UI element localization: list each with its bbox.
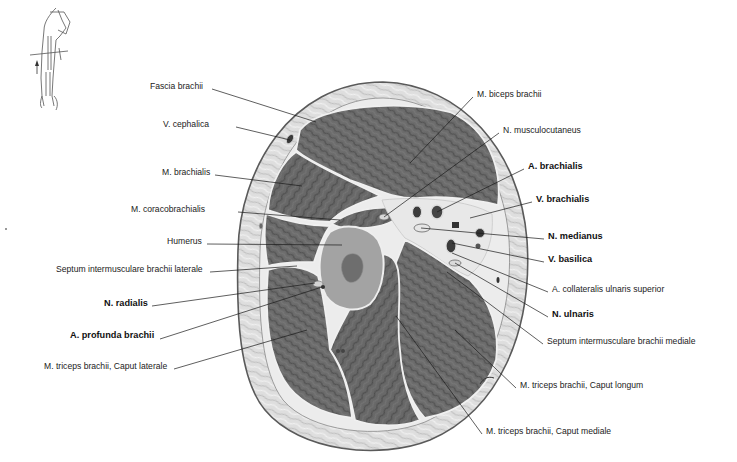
label-a-collateralis-ulnaris-superior: A. collateralis ulnaris superior xyxy=(552,284,664,294)
label-fascia-brachii: Fascia brachii xyxy=(150,81,203,91)
label-v-basilica: V. basilica xyxy=(548,254,592,264)
label-triceps-caput-mediale: M. triceps brachii, Caput mediale xyxy=(486,426,611,436)
label-triceps-caput-laterale: M. triceps brachii, Caput laterale xyxy=(44,361,167,371)
vessel-1 xyxy=(413,206,422,218)
arm-cross-section xyxy=(0,0,737,462)
label-septum-laterale: Septum intermusculare brachii laterale xyxy=(56,264,203,274)
v-brachialis xyxy=(452,222,459,228)
v-basilica xyxy=(446,239,456,253)
label-n-ulnaris: N. ulnaris xyxy=(552,309,594,319)
label-humerus: Humerus xyxy=(167,236,202,246)
label-v-brachialis: V. brachialis xyxy=(536,194,589,204)
label-a-profunda-brachii: A. profunda brachii xyxy=(70,330,154,340)
label-triceps-caput-longum: M. triceps brachii, Caput longum xyxy=(520,380,643,390)
label-m-coracobrachialis: M. coracobrachialis xyxy=(131,204,205,214)
label-a-brachialis: A. brachialis xyxy=(528,161,583,171)
anatomy-figure: Fascia brachii V. cephalica M. brachiali… xyxy=(0,0,737,462)
small-vessel-post2 xyxy=(341,349,345,353)
label-m-biceps-brachii: M. biceps brachii xyxy=(477,89,541,99)
vessel-medial xyxy=(497,277,500,283)
small-vessel-left xyxy=(259,223,263,229)
label-n-radialis: N. radialis xyxy=(104,298,148,308)
label-n-musculocutaneus: N. musculocutaneus xyxy=(503,125,581,135)
label-m-brachialis: M. brachialis xyxy=(162,167,210,177)
label-septum-mediale: Septum intermusculare brachii mediale xyxy=(547,336,696,346)
leader-line xyxy=(212,89,316,122)
stray-dot xyxy=(5,228,7,230)
label-n-medianus: N. medianus xyxy=(548,231,603,241)
small-vessel-post1 xyxy=(336,349,340,353)
label-v-cephalica: V. cephalica xyxy=(163,119,209,129)
